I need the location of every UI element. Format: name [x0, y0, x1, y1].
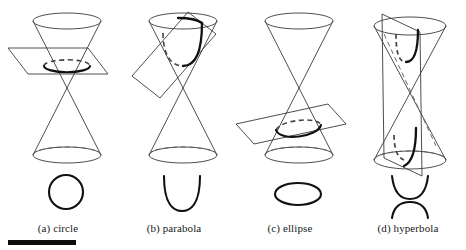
ellipse-diagram	[232, 0, 348, 250]
caption-circle: (a) circle	[0, 222, 116, 234]
conic-sections-figure: (a) circle (b) parabola	[0, 0, 466, 250]
upper-cone-rim	[374, 17, 446, 35]
lower-cone-rim-back-dashed	[33, 147, 101, 155]
lower-cone-right-edge	[183, 88, 217, 155]
upper-branch-back-dashed	[396, 34, 406, 62]
upper-cone-right-edge	[299, 21, 333, 88]
circle-diagram	[0, 0, 116, 250]
panel-hyperbola: (d) hyperbola	[350, 0, 466, 250]
parabola-diagram	[116, 0, 232, 250]
hyperbola-upper-arc-2d	[392, 176, 428, 199]
cutting-plane	[382, 14, 422, 176]
cutting-plane	[236, 104, 346, 144]
parabola-curve-2d	[164, 176, 200, 211]
parabola-section-curve	[183, 23, 202, 66]
upper-cone-rim	[265, 13, 333, 29]
cutting-plane	[132, 12, 216, 98]
caption-ellipse: (c) ellipse	[232, 222, 348, 234]
lower-cone-left-edge	[149, 88, 183, 155]
circle-curve-2d	[49, 175, 83, 209]
lower-cone-left-edge	[33, 88, 67, 155]
lower-cone-right-edge	[410, 93, 446, 160]
lower-cone-rim-back-dashed	[265, 147, 333, 155]
upper-cone-left-edge	[33, 21, 67, 88]
ellipse-section-curve	[276, 125, 321, 137]
upper-cone-rim	[33, 13, 101, 29]
hyperbola-diagram	[350, 0, 466, 250]
panel-parabola: (b) parabola	[116, 0, 232, 250]
caption-parabola: (b) parabola	[116, 222, 232, 234]
lower-cone-rim-back-dashed	[149, 147, 217, 155]
lower-branch-back-dashed	[394, 135, 404, 160]
hyperbola-lower-arc-2d	[392, 202, 428, 218]
lower-cone-right-edge	[67, 88, 101, 155]
panel-circle: (a) circle	[0, 0, 116, 250]
upper-cone-right-edge	[410, 26, 446, 93]
section-back-dashed	[44, 60, 90, 66]
ellipse-curve-2d	[275, 183, 321, 205]
section-back-dashed	[163, 33, 183, 66]
parabola-section-curve-top	[178, 18, 202, 23]
upper-cone-left-edge	[374, 26, 410, 93]
caption-hyperbola: (d) hyperbola	[350, 222, 466, 234]
lower-branch-section-curve	[404, 128, 416, 166]
panel-ellipse: (c) ellipse	[232, 0, 348, 250]
section-back-dashed	[276, 120, 321, 130]
interior-generator-dashed	[384, 34, 436, 146]
upper-cone-right-edge	[67, 21, 101, 88]
upper-cone-left-edge	[265, 21, 299, 88]
scale-bar	[8, 240, 76, 245]
circle-section-curve	[44, 66, 90, 72]
lower-cone-left-edge	[374, 93, 410, 160]
